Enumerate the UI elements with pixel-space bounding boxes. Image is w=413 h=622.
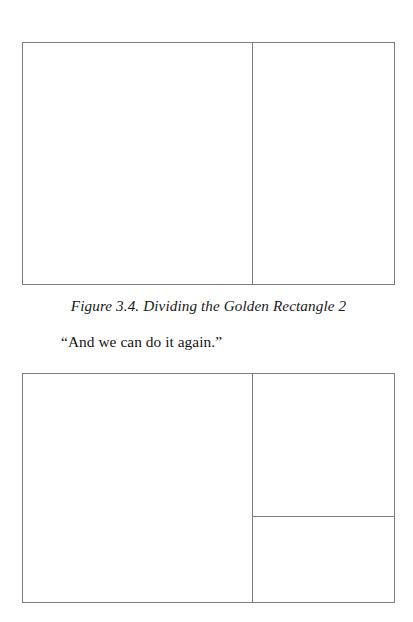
figure-vertical-divider <box>252 43 253 284</box>
figure-golden-rectangle-2 <box>22 42 395 285</box>
figure-golden-rectangle-3 <box>22 373 395 603</box>
figure-caption: Figure 3.4. Dividing the Golden Rectangl… <box>22 296 395 315</box>
figure-horizontal-divider <box>252 516 394 517</box>
figure-vertical-divider <box>252 374 253 602</box>
body-quote-text: “And we can do it again.” <box>61 332 222 352</box>
document-page: Figure 3.4. Dividing the Golden Rectangl… <box>0 0 413 622</box>
